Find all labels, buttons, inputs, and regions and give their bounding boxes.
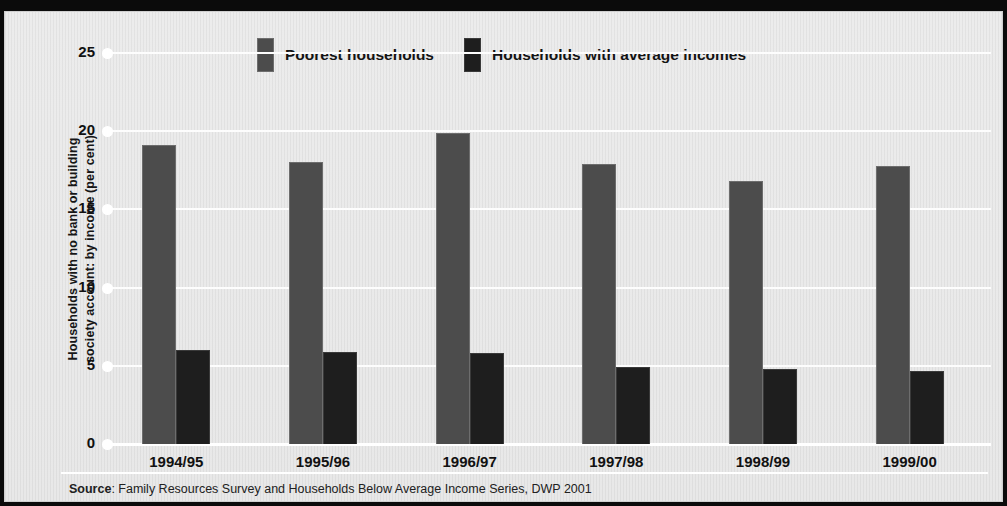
bar-group-1994-95: 1994/95 xyxy=(111,53,258,444)
chart-paper: Households with no bank or building soci… xyxy=(4,11,1003,502)
bar-poorest-1995-96 xyxy=(289,162,323,444)
y-axis-title-line-2: society account: by income (per cent) xyxy=(82,56,99,442)
bar-group-1998-99: 1998/99 xyxy=(698,53,845,444)
x-tick-label-1999-00: 1999/00 xyxy=(866,453,954,470)
bar-group-1995-96: 1995/96 xyxy=(258,53,405,444)
x-tick-label-1998-99: 1998/99 xyxy=(719,453,807,470)
bar-average-1995-96 xyxy=(323,352,357,444)
y-axis-title-line-1: Households with no bank or building xyxy=(65,56,82,442)
bar-poorest-1994-95 xyxy=(142,145,176,444)
y-tick-label-10: 10 xyxy=(78,278,95,295)
x-tick-label-1994-95: 1994/95 xyxy=(132,453,220,470)
bar-average-1998-99 xyxy=(763,369,797,444)
y-tick-label-5: 5 xyxy=(87,356,95,373)
y-tick-label-25: 25 xyxy=(78,43,95,60)
bar-group-1999-00: 1999/00 xyxy=(844,53,991,444)
y-tick-label-20: 20 xyxy=(78,121,95,138)
bar-group-1997-98: 1997/98 xyxy=(551,53,698,444)
x-tick-label-1997-98: 1997/98 xyxy=(572,453,660,470)
y-tick-label-0: 0 xyxy=(87,434,95,451)
source-text: : Family Resources Survey and Households… xyxy=(111,482,591,496)
x-tick-label-1995-96: 1995/96 xyxy=(279,453,367,470)
bar-poorest-1999-00 xyxy=(876,166,910,444)
x-tick-label-1996-97: 1996/97 xyxy=(426,453,514,470)
bar-average-1997-98 xyxy=(616,367,650,444)
footer-divider xyxy=(61,472,988,474)
bar-poorest-1996-97 xyxy=(436,133,470,444)
source-label: Source xyxy=(69,482,111,496)
source-note: Source: Family Resources Survey and Hous… xyxy=(69,482,592,496)
bar-average-1994-95 xyxy=(176,350,210,444)
plot-area: 05101520251994/951995/961996/971997/9819… xyxy=(111,53,991,444)
frame-bottom-band xyxy=(0,502,1007,506)
bar-poorest-1997-98 xyxy=(582,164,616,444)
bar-average-1996-97 xyxy=(470,353,504,444)
bar-poorest-1998-99 xyxy=(729,181,763,444)
bar-group-1996-97: 1996/97 xyxy=(404,53,551,444)
bar-average-1999-00 xyxy=(910,371,944,445)
y-tick-label-15: 15 xyxy=(78,199,95,216)
y-axis-title: Households with no bank or building soci… xyxy=(19,0,63,56)
chart-figure: Households with no bank or building soci… xyxy=(0,0,1007,506)
